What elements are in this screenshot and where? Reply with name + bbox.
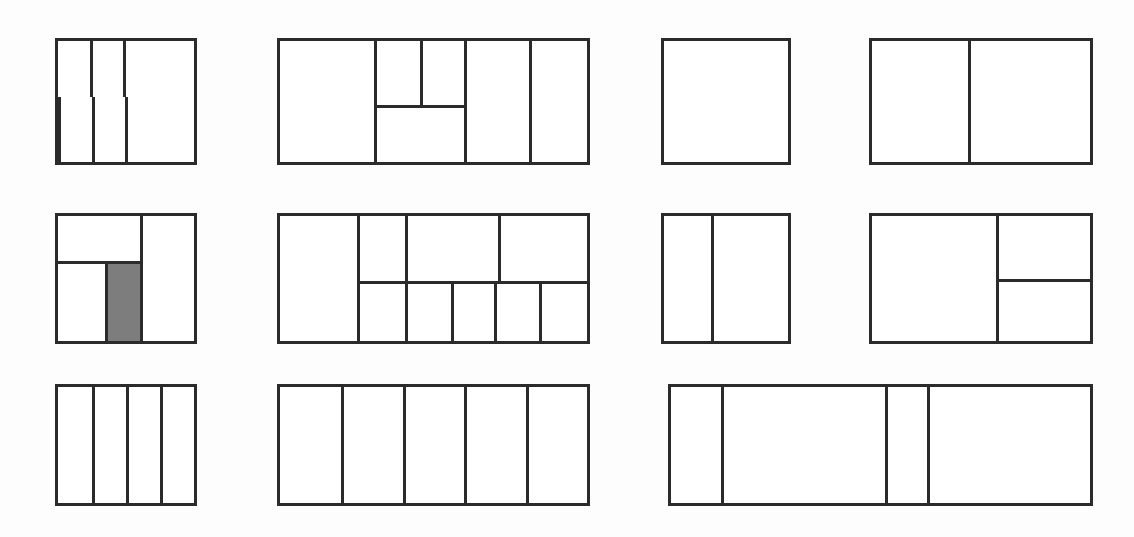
panel-r1c1-cell-4[interactable]: [61, 97, 92, 162]
panel-r1c1-top-row: [58, 41, 194, 97]
panel-r2c1-cell-2[interactable]: [58, 264, 105, 341]
layout-panel-r1c2[interactable]: [277, 38, 590, 165]
panel-r2c1-left-bottom: [58, 261, 140, 341]
panel-r3c3-cell-3[interactable]: [885, 387, 927, 503]
panel-r1c1-cell-3[interactable]: [123, 41, 194, 97]
panel-r3c2-cell-2[interactable]: [341, 387, 402, 503]
layout-panel-r2c1[interactable]: [55, 213, 197, 344]
panel-r1c2-cell-3[interactable]: [420, 41, 464, 105]
panel-r1c4-cell-2[interactable]: [968, 41, 1090, 162]
layout-panel-r1c1[interactable]: [55, 38, 197, 165]
panel-r3c3-cell-2[interactable]: [721, 387, 884, 503]
panel-r1c2-cell-1[interactable]: [280, 41, 374, 162]
panel-r2c1-cell-3-shaded[interactable]: [105, 264, 139, 341]
panel-r3c3-cell-4[interactable]: [927, 387, 1090, 503]
layout-panel-r2c4[interactable]: [869, 213, 1093, 344]
panel-r1c1-cell-5[interactable]: [92, 97, 125, 162]
panel-r2c4-cell-3[interactable]: [999, 279, 1090, 342]
panel-r2c2-right-bottom: [360, 281, 587, 341]
layout-panel-r2c2[interactable]: [277, 213, 590, 344]
panel-r2c2-cell-7[interactable]: [451, 284, 494, 341]
panel-r2c2-cell-8[interactable]: [494, 284, 539, 341]
panel-r3c2-cell-4[interactable]: [464, 387, 525, 503]
panel-r2c2-right-group: [357, 216, 587, 341]
panel-r2c2-cell-9[interactable]: [539, 284, 587, 341]
panel-r1c2-middle-group: [374, 41, 465, 162]
panel-r3c1-cell-1[interactable]: [58, 387, 92, 503]
layout-panel-r3c1[interactable]: [55, 384, 197, 506]
panel-r2c1-left-group: [58, 216, 140, 341]
layout-panel-r1c4[interactable]: [869, 38, 1093, 165]
panel-r1c2-cell-4[interactable]: [377, 105, 465, 162]
panel-r2c2-cell-4[interactable]: [498, 216, 587, 281]
panel-r2c2-cell-6[interactable]: [405, 284, 450, 341]
panel-r2c3-cell-2[interactable]: [711, 216, 788, 341]
panel-r3c3-cell-1[interactable]: [671, 387, 721, 503]
panel-r2c2-right-top: [360, 216, 587, 281]
layout-panel-r1c3[interactable]: [661, 38, 791, 165]
panel-r1c3-cell-1[interactable]: [664, 41, 788, 162]
layout-panel-r3c3[interactable]: [668, 384, 1093, 506]
layout-panel-r2c3[interactable]: [661, 213, 791, 344]
panel-r3c2-cell-1[interactable]: [280, 387, 341, 503]
panel-r2c1-cell-4[interactable]: [140, 216, 194, 341]
panel-r3c1-cell-3[interactable]: [126, 387, 160, 503]
panel-r2c3-cell-1[interactable]: [664, 216, 711, 341]
panel-r1c1-cell-1[interactable]: [58, 41, 90, 97]
panel-r1c2-cell-6[interactable]: [529, 41, 587, 162]
panel-r1c2-cell-5[interactable]: [464, 41, 528, 162]
panel-r1c2-middle-top: [377, 41, 465, 105]
layout-panel-r3c2[interactable]: [277, 384, 590, 506]
panel-r1c4-cell-1[interactable]: [872, 41, 968, 162]
panel-r2c4-right-group: [996, 216, 1090, 341]
panel-r1c1-cell-6[interactable]: [125, 97, 194, 162]
panel-r3c1-cell-4[interactable]: [160, 387, 194, 503]
panel-r2c2-cell-2[interactable]: [360, 216, 405, 281]
panel-r2c4-cell-1[interactable]: [872, 216, 996, 341]
panel-r3c1-cell-2[interactable]: [92, 387, 126, 503]
panel-r3c2-cell-3[interactable]: [403, 387, 464, 503]
panel-r2c1-cell-1[interactable]: [58, 216, 140, 261]
panel-r2c2-cell-1[interactable]: [280, 216, 357, 341]
panel-r1c2-cell-2[interactable]: [377, 41, 421, 105]
panel-r2c2-cell-3[interactable]: [405, 216, 498, 281]
panel-r2c2-cell-5[interactable]: [360, 284, 405, 341]
panel-r3c2-cell-5[interactable]: [526, 387, 587, 503]
panel-r2c4-cell-2[interactable]: [999, 216, 1090, 279]
panel-r1c1-cell-2[interactable]: [90, 41, 123, 97]
panel-r1c1-bottom-row: [58, 97, 194, 162]
diagram-sheet: [0, 0, 1134, 537]
